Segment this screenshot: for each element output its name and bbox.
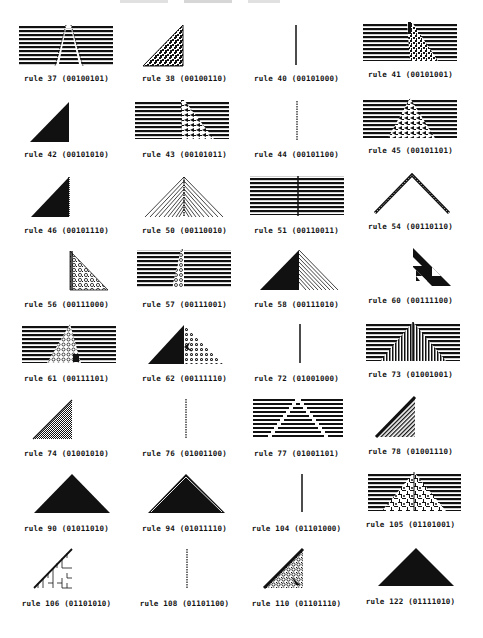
rule-label: rule 74 (01001010) [6,449,127,458]
rule-label: rule 110 (01101110) [236,599,357,608]
rule-panel: rule 56 (00111000) [6,248,127,323]
rule-label: rule 104 (01101000) [236,524,357,533]
pattern-stripes-triangle-hollow [6,22,127,82]
pattern-left-triangle-chaotic-edge [236,547,357,607]
rule-panel: rule 44 (00101100) [236,98,357,173]
rule-panel: rule 50 (00110010) [124,174,245,249]
pattern-vertical-line [236,22,357,82]
rule-panel: rule 73 (01001001) [350,320,471,395]
rule-label: rule 122 (01111010) [350,597,471,606]
rule-panel: rule 77 (01001101) [236,397,357,472]
pattern-triangle-solid [6,472,127,532]
rule-panel: rule 78 (01001110) [350,395,471,470]
rule-label: rule 108 (01101100) [124,599,245,608]
rule-panel: rule 38 (00100110) [124,22,245,97]
rule-label: rule 46 (00101110) [6,226,127,235]
rule-panel: rule 108 (01101100) [124,547,245,622]
rule-panel: rule 122 (01111010) [350,545,471,620]
rule-panel: rule 37 (00100101) [6,22,127,97]
rule-label: rule 38 (00100110) [124,74,245,83]
pattern-vertical-line [236,322,357,382]
rule-label: rule 54 (00110110) [350,222,471,231]
pattern-triangle-half-solid-half-hatched [236,248,357,308]
pattern-stripes-right-chaotic [124,98,245,158]
rule-label: rule 50 (00110010) [124,226,245,235]
pattern-triangle-solid [350,545,471,605]
rule-label: rule 41 (00101001) [350,70,471,79]
rule-panel: rule 60 (00111100) [350,246,471,321]
rule-panel: rule 40 (00101000) [236,22,357,97]
pattern-right-triangle-chaotic [6,248,127,308]
rule-label: rule 60 (00111100) [350,296,471,305]
pattern-left-triangle-solid [6,98,127,158]
pattern-vertical-dotted-line [236,98,357,158]
rule-label: rule 51 (00110011) [236,226,357,235]
rule-label: rule 57 (00111001) [124,300,245,309]
pattern-vertical-dotted-line [124,547,245,607]
rule-panel: rule 41 (00101001) [350,20,471,95]
rule-panel: rule 51 (00110011) [236,174,357,249]
rule-label: rule 58 (00111010) [236,300,357,309]
pattern-left-triangle-hatched-edge [350,395,471,455]
pattern-stripes-stepped-pyramid [236,397,357,457]
rule-panel: rule 104 (01101000) [236,472,357,547]
rule-label: rule 73 (01001001) [350,370,471,379]
rule-panel: rule 43 (00101011) [124,98,245,173]
rule-panel: rule 105 (01101001) [350,470,471,545]
rule-panel: rule 61 (00111101) [6,322,127,397]
rule-label: rule 72 (01001000) [236,374,357,383]
rule-label: rule 44 (00101100) [236,150,357,159]
rule-label: rule 76 (01001100) [124,449,245,458]
rule-panel: rule 72 (01001000) [236,322,357,397]
pattern-left-triangle-solid [6,174,127,234]
rule-panel: rule 90 (01011010) [6,472,127,547]
rule-label: rule 40 (00101000) [236,74,357,83]
rule-panel: rule 54 (00110110) [350,172,471,247]
rule-label: rule 106 (01101010) [6,599,127,608]
pattern-vertical-line [236,472,357,532]
rule-label: rule 43 (00101011) [124,150,245,159]
pattern-triangle-hatched [124,174,245,234]
rule-panel: rule 76 (01001100) [124,397,245,472]
pattern-vertical-dotted-line [124,397,245,457]
rule-label: rule 45 (00101101) [350,146,471,155]
rule-panel: rule 62 (00111110) [124,322,245,397]
pattern-left-triangle-sierpinski [6,547,127,607]
rule-panel: rule 42 (00101010) [6,98,127,173]
rule-label: rule 62 (00111110) [124,374,245,383]
pattern-stripes-shifted-chaotic [124,248,245,308]
rule-label: rule 37 (00100101) [6,74,127,83]
rule-panel: rule 46 (00101110) [6,174,127,249]
pattern-left-triangle-hatched [6,397,127,457]
rule-panel: rule 110 (01101110) [236,547,357,622]
rule-label: rule 90 (01011010) [6,524,127,533]
pattern-triangle-half-solid-half-chaotic [124,322,245,382]
pattern-stripes-vertical-line [236,174,357,234]
cropped-header-text [120,0,280,3]
pattern-triangle-solid-outlined [124,472,245,532]
rule-panel: rule 45 (00101101) [350,96,471,171]
rule-panel: rule 74 (01001010) [6,397,127,472]
rule-panel: rule 106 (01101010) [6,547,127,622]
rule-panel: rule 94 (01011110) [124,472,245,547]
rule-label: rule 56 (00111000) [6,300,127,309]
rule-panel: rule 58 (00111010) [236,248,357,323]
rule-panel: rule 57 (00111001) [124,248,245,323]
rule-label: rule 78 (01001110) [350,447,471,456]
pattern-left-triangle-chaotic [124,22,245,82]
pattern-stripes-triangle-chaotic [6,322,127,382]
rule-label: rule 105 (01101001) [350,520,471,529]
rule-label: rule 61 (00111101) [6,374,127,383]
rule-label: rule 94 (01011110) [124,524,245,533]
rule-label: rule 42 (00101010) [6,150,127,159]
rule-label: rule 77 (01001101) [236,449,357,458]
